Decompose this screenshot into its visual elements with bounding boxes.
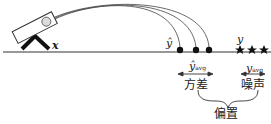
star-icon [235,45,245,54]
y-avg-label: yavg [246,59,263,75]
prediction-dot [177,47,183,53]
prediction-dot [193,47,199,53]
star-icon [259,45,269,54]
y-hat-avg-label: ŷavg [189,57,206,73]
trajectory-1 [55,6,180,47]
variance-label: 方差 [184,79,208,91]
diagram-drawing [0,0,271,124]
noise-label: 噪声 [241,79,265,91]
y-hat-label: ŷ [166,38,172,49]
star-icon [247,45,257,54]
bias-variance-diagram: x ŷ y ŷavg yavg 方差 噪声 偏置 [0,0,271,124]
bias-label: 偏置 [214,108,238,120]
target-stars [235,45,269,54]
input-x-label: x [52,40,59,51]
prediction-dot [206,47,212,53]
y-label: y [237,34,243,45]
bias-brace [198,90,258,108]
